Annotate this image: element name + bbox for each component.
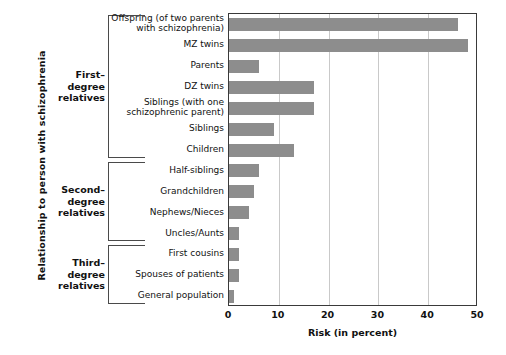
- category-label: Grandchildren: [86, 186, 224, 197]
- bar: [229, 164, 259, 177]
- category-label-line: Siblings: [86, 123, 224, 134]
- bar-chart: Relationship to person with schizophreni…: [0, 0, 506, 355]
- category-label: Nephews/Nieces: [86, 207, 224, 218]
- category-label: Siblings: [86, 123, 224, 134]
- x-tick-label: 40: [407, 309, 447, 320]
- category-label-line: Half-siblings: [86, 165, 224, 176]
- plot-area: [228, 13, 477, 306]
- category-label-line: General population: [86, 290, 224, 301]
- category-label-line: Parents: [86, 60, 224, 71]
- category-label-line: Uncles/Aunts: [86, 228, 224, 239]
- bar: [229, 227, 239, 240]
- category-label-line: Spouses of patients: [86, 269, 224, 280]
- category-label: General population: [86, 290, 224, 301]
- category-label: Spouses of patients: [86, 269, 224, 280]
- category-label-line: schizophrenic parent): [86, 107, 224, 118]
- category-label: Half-siblings: [86, 165, 224, 176]
- bar: [229, 185, 254, 198]
- x-tick-label: 30: [357, 309, 397, 320]
- bar: [229, 206, 249, 219]
- bar: [229, 123, 274, 136]
- x-axis-title: Risk (in percent): [228, 327, 477, 338]
- bar: [229, 60, 259, 73]
- gridline: [428, 14, 429, 305]
- category-label-line: with schizophrenia): [86, 23, 224, 34]
- category-label-layer: Offspring (of two parentswith schizophre…: [86, 0, 224, 355]
- category-label: Children: [86, 144, 224, 155]
- category-label-line: MZ twins: [86, 39, 224, 50]
- category-label-line: Siblings (with one: [86, 97, 224, 108]
- category-label: First cousins: [86, 248, 224, 259]
- category-label: Parents: [86, 60, 224, 71]
- category-label: MZ twins: [86, 39, 224, 50]
- bar: [229, 39, 468, 52]
- category-label-line: First cousins: [86, 248, 224, 259]
- bar: [229, 144, 294, 157]
- bar: [229, 290, 234, 303]
- category-label: Uncles/Aunts: [86, 228, 224, 239]
- x-tick-label: 50: [457, 309, 497, 320]
- category-label: Offspring (of two parentswith schizophre…: [86, 13, 224, 34]
- bar: [229, 269, 239, 282]
- bar: [229, 102, 314, 115]
- category-label-line: Grandchildren: [86, 186, 224, 197]
- bar: [229, 81, 314, 94]
- category-label-line: DZ twins: [86, 81, 224, 92]
- category-label: DZ twins: [86, 81, 224, 92]
- category-label-line: Nephews/Nieces: [86, 207, 224, 218]
- category-label-line: Children: [86, 144, 224, 155]
- gridline: [329, 14, 330, 305]
- bar: [229, 18, 458, 31]
- category-label-line: Offspring (of two parents: [86, 13, 224, 24]
- gridline: [279, 14, 280, 305]
- x-tick-label: 10: [258, 309, 298, 320]
- gridline: [378, 14, 379, 305]
- x-tick-label: 0: [208, 309, 248, 320]
- x-tick-label: 20: [308, 309, 348, 320]
- category-label: Siblings (with oneschizophrenic parent): [86, 97, 224, 118]
- bar: [229, 248, 239, 261]
